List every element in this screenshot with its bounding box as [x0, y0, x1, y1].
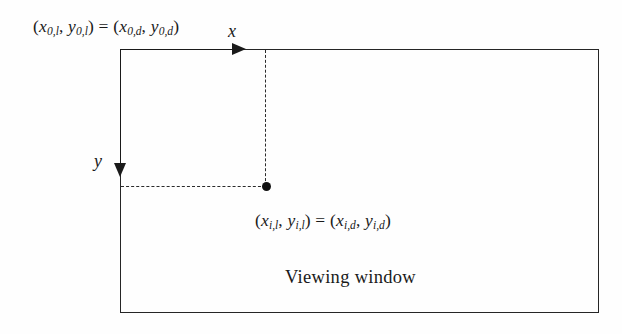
origin-x-right-subscript: 0,d: [127, 25, 141, 37]
sample-point-marker: [262, 182, 271, 191]
origin-comma-1: ,: [59, 16, 68, 36]
origin-close-paren-2: ): [173, 16, 179, 36]
vertical-dashed-guide: [265, 50, 266, 186]
y-axis-arrowhead-icon: [114, 163, 126, 177]
origin-y-left-subscript: 0,l: [76, 25, 88, 37]
origin-x-left-subscript: 0,l: [47, 25, 59, 37]
point-x-left-subscript: i,l: [269, 219, 278, 231]
origin-equals-sign: =: [94, 16, 113, 36]
point-x-right-symbol: x: [336, 210, 344, 230]
figure-canvas: (x0,l, y0,l) = (x0,d, y0,d) x y (xi,l, y…: [0, 0, 622, 334]
origin-comma-2: ,: [142, 16, 151, 36]
x-axis-label: x: [228, 22, 236, 40]
origin-y-right-subscript: 0,d: [159, 25, 173, 37]
origin-y-right-symbol: y: [151, 16, 159, 36]
point-y-left-subscript: i,l: [295, 219, 304, 231]
horizontal-dashed-guide: [121, 186, 266, 187]
point-equals-sign: =: [311, 210, 330, 230]
y-axis-label: y: [94, 152, 102, 170]
viewing-window-caption: Viewing window: [285, 268, 416, 287]
point-x-left-symbol: x: [261, 210, 269, 230]
point-x-right-subscript: i,d: [344, 219, 356, 231]
x-axis-line: [120, 49, 238, 50]
point-comma-2: ,: [356, 210, 365, 230]
point-y-right-subscript: i,d: [373, 219, 385, 231]
origin-coordinate-equation: (x0,l, y0,l) = (x0,d, y0,d): [33, 18, 179, 38]
x-axis-arrowhead-icon: [232, 43, 246, 55]
y-axis-line: [120, 49, 121, 168]
point-y-right-symbol: y: [365, 210, 373, 230]
origin-x-left-symbol: x: [39, 16, 47, 36]
point-close-paren-2: ): [385, 210, 391, 230]
origin-x-right-symbol: x: [119, 16, 127, 36]
origin-y-left-symbol: y: [68, 16, 76, 36]
point-coordinate-equation: (xi,l, yi,l) = (xi,d, yi,d): [255, 212, 391, 232]
